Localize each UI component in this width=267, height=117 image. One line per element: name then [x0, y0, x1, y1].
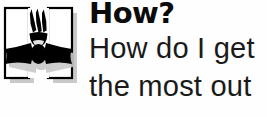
page-title: How?: [89, 0, 174, 29]
text-block: How? How do I get the most out: [89, 0, 267, 117]
bow-tie-knot: [31, 44, 47, 64]
body-line-1: How do I get: [89, 31, 255, 65]
h-face-mascot-logo: [0, 0, 88, 100]
page-root: How? How do I get the most out: [0, 0, 267, 117]
body-line-2: the most out: [89, 69, 251, 103]
logo-artwork: [0, 0, 88, 100]
